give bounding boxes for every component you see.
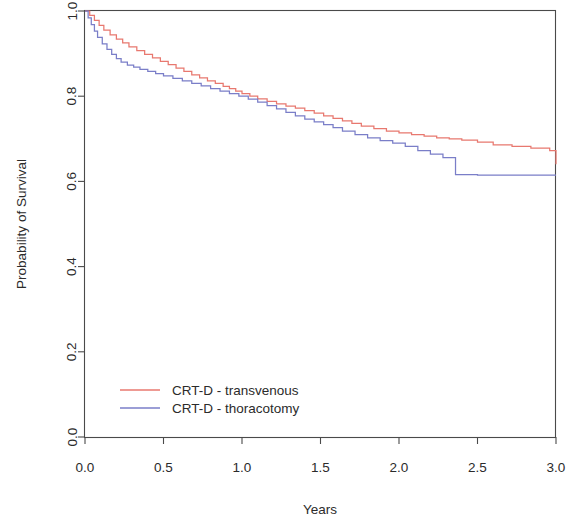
km-curve-crt-d-transvenous (85, 11, 556, 164)
x-tick-label: 1.0 (233, 460, 252, 475)
y-axis-title: Probability of Survival (14, 159, 29, 289)
x-tick-label: 2.5 (468, 460, 487, 475)
y-tick-label: 0.4 (65, 257, 80, 276)
plot-frame (85, 11, 556, 438)
km-curve-crt-d-thoracotomy (85, 11, 556, 175)
x-tick-label: 0.0 (76, 460, 95, 475)
y-tick-label: 1.0 (65, 2, 80, 21)
legend-label-1: CRT-D - thoracotomy (172, 401, 300, 416)
x-tick-label: 1.5 (311, 460, 330, 475)
x-tick-label: 3.0 (547, 460, 566, 475)
legend: CRT-D - transvenousCRT-D - thoracotomy (120, 383, 300, 416)
survival-curves (85, 11, 556, 175)
survival-curve-figure: 0.00.20.40.60.81.0 0.00.51.01.52.02.53.0… (0, 0, 575, 527)
x-tick-label: 2.0 (390, 460, 409, 475)
x-tick-label: 0.5 (154, 460, 173, 475)
y-tick-label: 0.0 (65, 428, 80, 447)
x-axis-ticks: 0.00.51.01.52.02.53.0 (76, 437, 566, 475)
y-tick-label: 0.6 (65, 172, 80, 191)
x-axis-title: Years (303, 502, 337, 517)
y-axis-ticks: 0.00.20.40.60.81.0 (65, 2, 86, 447)
y-tick-label: 0.8 (65, 87, 80, 106)
y-tick-label: 0.2 (65, 342, 80, 361)
legend-label-0: CRT-D - transvenous (172, 383, 299, 398)
kaplan-meier-plot: 0.00.20.40.60.81.0 0.00.51.01.52.02.53.0… (0, 0, 575, 527)
